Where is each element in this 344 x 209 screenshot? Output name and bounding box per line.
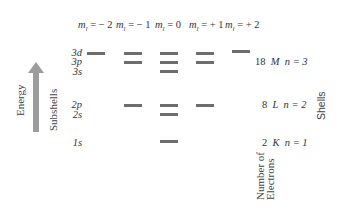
orbital-3d-ml-0 [160, 52, 178, 55]
electron-count: 8 [262, 99, 267, 110]
orbital-3d-ml-plus1 [196, 52, 214, 55]
ml-label-minus1: ml = − 1 [116, 19, 151, 33]
ml-symbol: m [189, 19, 197, 30]
energy-label: Energy [14, 84, 26, 116]
orbital-3d-ml-minus2 [87, 52, 105, 55]
subshells-label: Subshells [47, 89, 59, 131]
ml-value: = − 1 [128, 19, 150, 30]
subshell-label-2s: 2s [66, 110, 82, 120]
shells-label: Shells [315, 91, 327, 120]
ml-symbol: m [116, 19, 124, 30]
orbital-3p-ml-0 [160, 61, 178, 64]
ml-label-plus1: ml = + 1 [189, 19, 224, 33]
shell-letter: K [273, 137, 280, 148]
ml-symbol: m [225, 19, 233, 30]
shell-n: n = 3 [285, 56, 308, 67]
ml-value: = − 2 [90, 19, 112, 30]
shell-letter: M [271, 56, 280, 67]
ml-subscript: l [233, 25, 235, 33]
ml-label-0: ml = 0 [155, 19, 181, 33]
shell-n: n = 1 [285, 137, 308, 148]
shell-label-L: 8 L n = 2 [262, 100, 306, 110]
orbital-3p-ml-plus1 [196, 61, 214, 64]
ml-value: = + 1 [201, 19, 223, 30]
ml-subscript: l [197, 25, 199, 33]
ml-subscript: l [163, 25, 165, 33]
electron-count: 2 [262, 137, 267, 148]
number-of-electrons-label: Number of Electrons [255, 152, 275, 200]
orbital-2p-ml-minus1 [124, 104, 142, 107]
electron-count: 18 [255, 56, 266, 67]
orbital-3p-ml-minus1 [124, 61, 142, 64]
electrons-label-line2: Electrons [265, 152, 275, 200]
shell-label-M: 18 M n = 3 [255, 57, 308, 67]
shell-n: n = 2 [284, 99, 307, 110]
orbital-1s-ml-0 [160, 140, 178, 143]
orbital-2p-ml-plus1 [196, 104, 214, 107]
ml-symbol: m [155, 19, 163, 30]
shell-label-K: 2 K n = 1 [262, 138, 308, 148]
orbital-3d-ml-plus2 [232, 50, 250, 53]
orbital-2s-ml-0 [160, 113, 178, 116]
ml-label-minus2: ml = − 2 [78, 19, 113, 33]
ml-symbol: m [78, 19, 86, 30]
orbital-3d-ml-minus1 [124, 52, 142, 55]
ml-value: = + 2 [237, 19, 259, 30]
ml-subscript: l [86, 25, 88, 33]
ml-subscript: l [124, 25, 126, 33]
subshell-label-3s: 3s [66, 67, 82, 77]
ml-value: = 0 [167, 19, 181, 30]
up-arrow-icon [28, 62, 44, 132]
orbital-2p-ml-0 [160, 104, 178, 107]
shell-letter: L [273, 99, 279, 110]
subshell-label-1s: 1s [66, 138, 82, 148]
ml-label-plus2: ml = + 2 [225, 19, 260, 33]
orbital-3s-ml-0 [160, 70, 178, 73]
